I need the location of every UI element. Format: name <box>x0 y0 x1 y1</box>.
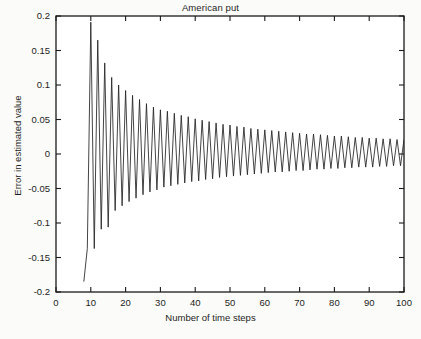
x-tick-labels: 0102030405060708090100 <box>53 297 412 308</box>
y-tick-label: -0.05 <box>28 183 50 194</box>
x-tick-label: 80 <box>329 297 340 308</box>
y-tick-label: 0 <box>45 148 50 159</box>
x-tick-label: 90 <box>364 297 375 308</box>
plot-area: 0102030405060708090100 -0.2-0.15-0.1-0.0… <box>28 10 412 308</box>
x-tick-label: 0 <box>53 297 58 308</box>
plot-background <box>56 16 404 292</box>
chart-title: American put <box>0 2 421 13</box>
y-tick-label: 0.15 <box>32 45 51 56</box>
plot-svg: 0102030405060708090100 -0.2-0.15-0.1-0.0… <box>0 0 421 339</box>
y-tick-label: -0.1 <box>34 217 50 228</box>
x-tick-label: 60 <box>260 297 271 308</box>
x-tick-label: 50 <box>225 297 236 308</box>
y-tick-label: 0.05 <box>32 114 51 125</box>
figure-container: American put Error in estimated value Nu… <box>0 0 421 339</box>
y-tick-labels: -0.2-0.15-0.1-0.0500.050.10.150.2 <box>28 10 50 297</box>
y-axis-label: Error in estimated value <box>12 56 23 236</box>
y-tick-label: -0.2 <box>34 286 50 297</box>
x-tick-label: 30 <box>155 297 166 308</box>
x-tick-label: 70 <box>294 297 305 308</box>
y-tick-label: -0.15 <box>28 252 50 263</box>
x-tick-label: 40 <box>190 297 201 308</box>
y-tick-label: 0.1 <box>37 79 50 90</box>
x-axis-label: Number of time steps <box>0 312 421 323</box>
x-tick-label: 20 <box>120 297 131 308</box>
x-tick-label: 100 <box>396 297 412 308</box>
x-tick-label: 10 <box>86 297 97 308</box>
